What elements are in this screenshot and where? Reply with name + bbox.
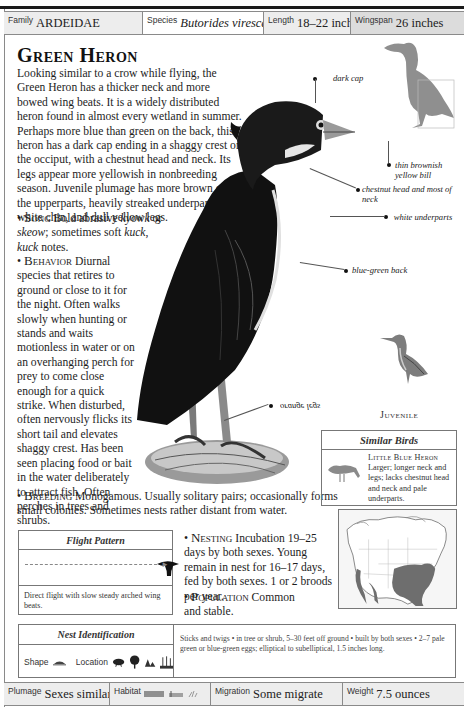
info-bar-bottom: Plumage Sexes similar Habitat Migration … <box>4 682 464 706</box>
marsh-reeds-icon <box>160 655 173 669</box>
range-map <box>338 509 457 609</box>
species-label: Species <box>147 15 177 25</box>
arrow-right-icon: ► <box>161 560 169 569</box>
annotation-dot <box>269 404 273 408</box>
wingspan-cell: Wingspan 26 inches <box>351 12 464 34</box>
nest-identification-heading: Nest Identification <box>19 625 173 645</box>
flight-pattern-box: Flight Pattern ► Direct flight with slow… <box>18 530 173 615</box>
flight-pattern-caption: Direct flight with slow steady arched wi… <box>19 586 172 616</box>
nest-shape-platform-icon <box>53 658 66 666</box>
length-label: Length <box>268 15 294 25</box>
migration-label: Migration <box>215 686 250 696</box>
annotation-dot <box>387 163 391 167</box>
family-cell: Family ARDEIDAE <box>4 12 143 34</box>
species-title: Green Heron <box>17 44 138 67</box>
shrub-icon <box>112 657 125 667</box>
song-label: Song <box>24 210 51 225</box>
species-value: Butorides virescens <box>180 16 264 31</box>
similar-bird-description: Larger; longer neck and legs; lacks ches… <box>368 463 456 504</box>
annotation-legs: orange legs <box>280 401 320 411</box>
flight-pattern-graphic: ► <box>19 550 172 586</box>
ground-rocks-icon <box>144 657 155 667</box>
population-label: Population <box>191 589 249 604</box>
info-bar-top: Family ARDEIDAE Species Butorides viresc… <box>4 11 464 35</box>
leader-line <box>330 216 385 217</box>
shrub-wetland-icon <box>188 690 198 698</box>
habitat-cell: Habitat <box>110 683 211 705</box>
family-label: Family <box>8 15 33 25</box>
nest-details: Sticks and twigs • in tree or shrub, 5–3… <box>174 625 455 677</box>
annotation-bill: thin brownish yellow bill <box>395 161 464 180</box>
leader-line <box>388 141 389 163</box>
wingspan-value: 26 inches <box>396 16 444 31</box>
breeding-label: Breeding <box>24 488 72 503</box>
nest-identification-box: Nest Identification Shape Location Stick… <box>18 624 456 678</box>
length-cell: Length 18–22 inches <box>264 12 351 34</box>
length-value: 18–22 inches <box>297 16 351 31</box>
species-cell: Species Butorides virescens <box>143 12 264 34</box>
family-value: ARDEIDAE <box>36 16 100 31</box>
little-blue-heron-thumbnail <box>326 458 362 484</box>
annotation-dot <box>356 188 360 192</box>
juvenile-heron-illustration <box>378 330 438 390</box>
tree-icon <box>129 655 140 669</box>
annotation-underparts: white underparts <box>392 213 454 223</box>
marsh-icon <box>169 690 183 698</box>
weight-value: 7.5 ounces <box>376 687 429 702</box>
annotation-back: blue-green back <box>352 266 407 276</box>
water-icon <box>144 690 164 698</box>
migration-cell: Migration Some migrate <box>211 683 343 705</box>
shape-label: Shape <box>24 657 49 667</box>
flight-path-line <box>25 564 162 565</box>
similar-bird-name: Little Blue Heron <box>368 453 456 463</box>
wingspan-label: Wingspan <box>355 15 393 25</box>
behavior-text: Diurnal species that retires to ground o… <box>17 255 135 527</box>
migration-value: Some migrate <box>253 687 323 702</box>
similar-birds-box: Similar Birds Little Blue Heron Larger; … <box>321 430 457 506</box>
location-label: Location <box>76 657 108 667</box>
size-silhouette-icon <box>382 40 457 130</box>
similar-birds-heading: Similar Birds <box>322 431 456 450</box>
similar-bird-item: Little Blue Heron Larger; longer neck an… <box>322 450 456 506</box>
plumage-cell: Plumage Sexes similar <box>4 683 110 705</box>
weight-label: Weight <box>347 686 373 696</box>
plumage-label: Plumage <box>8 686 42 696</box>
annotation-dark-cap: dark cap <box>333 74 363 84</box>
population-section: • Population Common and stable. <box>184 590 314 620</box>
weight-cell: Weight 7.5 ounces <box>343 683 464 705</box>
leader-line <box>315 79 316 103</box>
annotation-dot <box>344 269 348 273</box>
annotation-chestnut: chestnut head and most of neck <box>362 185 457 204</box>
behavior-label: Behavior <box>24 253 72 268</box>
plumage-value: Sexes similar <box>45 687 110 702</box>
nesting-label: Nesting <box>191 530 232 545</box>
flight-pattern-heading: Flight Pattern <box>19 531 172 550</box>
habitat-label: Habitat <box>114 686 141 696</box>
juvenile-label: Juvenile <box>380 409 418 420</box>
